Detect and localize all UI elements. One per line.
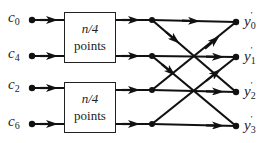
middle-node-2 [149, 87, 155, 93]
output-label-y1: y1' [244, 48, 252, 66]
middle-node-0 [149, 17, 155, 23]
subproblem-box-bottom: n/4 points [64, 82, 116, 133]
middle-node-1 [149, 53, 155, 59]
input-node-c6 [29, 121, 35, 127]
box-size-label: n/4 [82, 21, 99, 38]
edge-m3-y3 [152, 124, 236, 126]
output-node-y0 [233, 19, 239, 25]
input-node-c4 [29, 53, 35, 59]
output-node-y1 [233, 54, 239, 60]
input-node-c2 [29, 85, 35, 91]
input-label-c4: c4 [8, 46, 20, 63]
input-label-c6: c6 [8, 114, 20, 131]
box-size-label: n/4 [82, 91, 99, 108]
middle-node-3 [149, 121, 155, 127]
input-node-c0 [29, 17, 35, 23]
input-label-c0: c0 [8, 10, 20, 27]
output-node-y3 [233, 123, 239, 129]
box-points-label: points [74, 108, 106, 125]
subproblem-box-top: n/4 points [64, 12, 116, 63]
butterfly-network [0, 0, 266, 143]
output-label-y2: y2' [244, 83, 252, 101]
output-node-y2 [233, 89, 239, 95]
output-label-y3: y3' [244, 117, 252, 135]
box-points-label: points [74, 38, 106, 55]
output-label-y0: y0' [244, 13, 252, 31]
input-label-c2: c2 [8, 77, 20, 94]
